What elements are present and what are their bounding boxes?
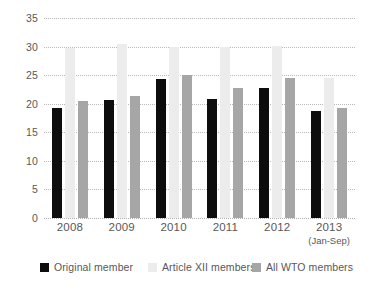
bar-2010-original-member [156, 79, 166, 218]
bar-group-2013 [311, 18, 347, 218]
x-tick-label-2013: 2013 [308, 221, 350, 233]
bar-group-2009 [104, 18, 140, 218]
y-tick-label-25: 25 [0, 69, 38, 81]
legend-swatch-icon [148, 263, 157, 272]
y-tick-label-35: 35 [0, 12, 38, 24]
bar-2013-original-member [311, 111, 321, 218]
bar-2011-article-xii-members [220, 47, 230, 218]
x-tick-label-2010: 2010 [160, 221, 186, 233]
x-tick-2009: 2009 [109, 221, 135, 233]
bar-2010-all-wto-members [182, 75, 192, 218]
legend-item-all-wto-members[interactable]: All WTO members [252, 261, 353, 273]
x-tick-sublabel-2013: (Jan-Sep) [308, 235, 350, 246]
bar-2012-original-member [259, 88, 269, 218]
bar-2013-article-xii-members [324, 78, 334, 218]
bar-2008-original-member [52, 108, 62, 218]
legend-item-article-xii-members[interactable]: Article XII members [148, 261, 256, 273]
bar-2010-article-xii-members [169, 47, 179, 218]
bar-2009-article-xii-members [117, 44, 127, 218]
x-tick-label-2009: 2009 [109, 221, 135, 233]
x-tick-2012: 2012 [264, 221, 290, 233]
x-tick-label-2008: 2008 [57, 221, 83, 233]
bar-2009-original-member [104, 100, 114, 218]
y-axis: 05101520253035 [0, 18, 38, 218]
bar-group-2011 [207, 18, 243, 218]
y-tick-label-0: 0 [0, 212, 38, 224]
y-tick-label-20: 20 [0, 98, 38, 110]
bar-group-2010 [156, 18, 192, 218]
legend-swatch-icon [252, 263, 261, 272]
bar-2008-article-xii-members [65, 48, 75, 218]
legend-item-original-member[interactable]: Original member [40, 261, 133, 273]
bar-2009-all-wto-members [130, 96, 140, 218]
bars-layer [44, 18, 355, 218]
legend-label: All WTO members [266, 261, 353, 273]
y-tick-label-10: 10 [0, 155, 38, 167]
x-tick-2011: 2011 [213, 221, 239, 233]
y-tick-label-5: 5 [0, 183, 38, 195]
y-tick-label-15: 15 [0, 126, 38, 138]
bar-2011-original-member [207, 99, 217, 218]
bar-2011-all-wto-members [233, 88, 243, 218]
x-tick-label-2012: 2012 [264, 221, 290, 233]
bar-2012-all-wto-members [285, 78, 295, 218]
x-tick-2008: 2008 [57, 221, 83, 233]
bar-2008-all-wto-members [78, 101, 88, 218]
x-axis: 200820092010201120122013(Jan-Sep) [44, 221, 355, 255]
bar-group-2012 [259, 18, 295, 218]
bar-2012-article-xii-members [272, 46, 282, 218]
bar-2013-all-wto-members [337, 108, 347, 218]
x-tick-label-2011: 2011 [213, 221, 239, 233]
legend-label: Original member [54, 261, 133, 273]
legend-label: Article XII members [162, 261, 256, 273]
x-tick-2013: 2013(Jan-Sep) [308, 221, 350, 246]
y-tick-label-30: 30 [0, 41, 38, 53]
x-tick-2010: 2010 [160, 221, 186, 233]
bar-chart-figure: 05101520253035 200820092010201120122013(… [0, 0, 372, 289]
bar-group-2008 [52, 18, 88, 218]
legend-swatch-icon [40, 263, 49, 272]
chart-legend: Original memberArticle XII membersAll WT… [0, 261, 372, 281]
gridline-0 [44, 218, 355, 219]
